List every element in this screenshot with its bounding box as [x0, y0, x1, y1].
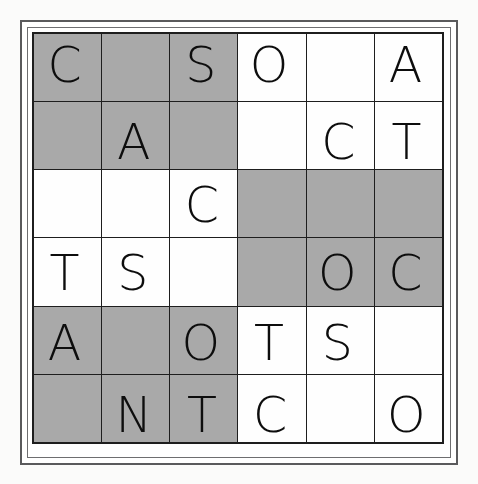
cell-letter: C	[47, 41, 81, 90]
grid-cell-r1c2[interactable]	[102, 34, 169, 101]
grid-cell-r2c5[interactable]: C	[307, 102, 374, 169]
grid-cell-r2c2[interactable]: A	[102, 102, 169, 169]
grid-cell-r4c3[interactable]	[170, 238, 237, 305]
grid-cell-r2c3[interactable]	[170, 102, 237, 169]
grid-cell-r5c6[interactable]	[375, 307, 442, 374]
cell-letter: C	[388, 249, 422, 298]
cell-letter: O	[318, 249, 357, 298]
grid-cell-r6c1[interactable]	[34, 375, 101, 442]
grid-cell-r4c4[interactable]	[238, 238, 305, 305]
grid-cell-r1c6[interactable]: A	[375, 34, 442, 101]
grid-cell-r4c1[interactable]: T	[34, 238, 101, 305]
grid-cell-r3c2[interactable]	[102, 170, 169, 237]
cell-letter: S	[322, 319, 353, 368]
grid-cell-r1c4[interactable]: O	[238, 34, 305, 101]
grid-cell-r5c5[interactable]: S	[307, 307, 374, 374]
cell-letter: O	[250, 41, 289, 90]
grid-cell-r3c6[interactable]	[375, 170, 442, 237]
grid-cell-r2c6[interactable]: T	[375, 102, 442, 169]
grid-cell-r6c4[interactable]: C	[238, 375, 305, 442]
cell-letter: S	[117, 249, 148, 298]
cell-letter: T	[391, 118, 421, 167]
grid-cell-r3c4[interactable]	[238, 170, 305, 237]
grid-cell-r6c2[interactable]: N	[102, 375, 169, 442]
cell-letter: S	[185, 41, 216, 90]
cell-letter: T	[254, 319, 284, 368]
letter-grid[interactable]: CSOAACTCTSOCAOTSNTCO	[32, 32, 444, 444]
grid-cell-r6c5[interactable]	[307, 375, 374, 442]
grid-cell-r3c1[interactable]	[34, 170, 101, 237]
grid-cell-r4c6[interactable]: C	[375, 238, 442, 305]
grid-cell-r4c2[interactable]: S	[102, 238, 169, 305]
grid-cell-r1c5[interactable]	[307, 34, 374, 101]
cell-letter: C	[185, 181, 219, 230]
cell-letter: O	[387, 391, 426, 440]
grid-cell-r4c5[interactable]: O	[307, 238, 374, 305]
grid-cell-r1c1[interactable]: C	[34, 34, 101, 101]
cell-letter: C	[321, 118, 355, 167]
cell-letter: T	[187, 391, 217, 440]
cell-letter: O	[182, 319, 221, 368]
grid-cell-r2c1[interactable]	[34, 102, 101, 169]
cell-letter: A	[48, 319, 82, 368]
grid-cell-r6c3[interactable]: T	[170, 375, 237, 442]
cell-letter: A	[117, 118, 151, 167]
puzzle-page: CSOAACTCTSOCAOTSNTCO	[0, 0, 478, 484]
grid-cell-r5c2[interactable]	[102, 307, 169, 374]
cell-letter: N	[115, 391, 152, 440]
grid-cell-r6c6[interactable]: O	[375, 375, 442, 442]
grid-cell-r1c3[interactable]: S	[170, 34, 237, 101]
grid-cell-r5c3[interactable]: O	[170, 307, 237, 374]
cell-letter: T	[50, 249, 80, 298]
grid-cell-r3c3[interactable]: C	[170, 170, 237, 237]
grid-cell-r5c1[interactable]: A	[34, 307, 101, 374]
cell-letter: C	[253, 391, 287, 440]
grid-cell-r3c5[interactable]	[307, 170, 374, 237]
cell-letter: A	[389, 41, 423, 90]
grid-cell-r5c4[interactable]: T	[238, 307, 305, 374]
grid-cell-r2c4[interactable]	[238, 102, 305, 169]
